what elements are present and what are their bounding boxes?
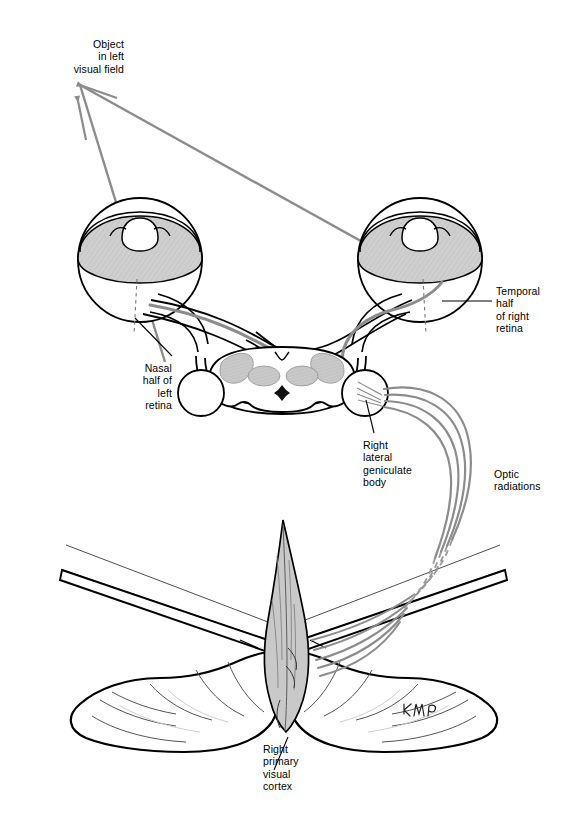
label-nasal-half-of-left-retina: Nasal half of left retina xyxy=(104,362,172,412)
left-eye xyxy=(78,198,208,352)
label-right-primary-visual-cortex: Right primary visual cortex xyxy=(263,743,333,793)
right-lateral-geniculate xyxy=(342,370,388,416)
occipital-lobe-left xyxy=(71,652,280,752)
right-eye xyxy=(352,198,482,352)
diagram-canvas xyxy=(0,0,566,830)
label-temporal-half-of-right-retina: Temporal half of right retina xyxy=(496,285,564,335)
cut-plane-right xyxy=(300,545,507,652)
label-object-in-left-visual-field: Object in left visual field xyxy=(20,38,124,75)
label-optic-radiations: Optic radiations xyxy=(494,468,564,493)
cut-plane-left xyxy=(60,545,268,652)
visual-pathway-figure: Object in left visual field Nasal half o… xyxy=(0,0,566,830)
label-right-lateral-geniculate-body: Right lateral geniculate body xyxy=(363,439,449,489)
visual-cortex xyxy=(264,520,308,732)
left-lateral-geniculate xyxy=(178,370,224,416)
